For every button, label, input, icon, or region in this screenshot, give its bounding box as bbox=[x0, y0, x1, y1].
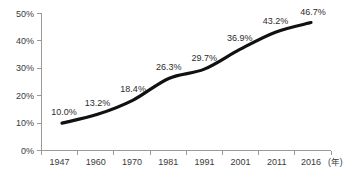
y-tick-label: 10% bbox=[16, 118, 34, 128]
x-tick-label: 2016 bbox=[301, 157, 321, 167]
data-label: 13.2% bbox=[85, 98, 111, 108]
x-tick-label: 2001 bbox=[231, 157, 251, 167]
data-label: 46.7% bbox=[300, 7, 326, 17]
data-label: 43.2% bbox=[263, 16, 289, 26]
chart-canvas: 0% 10% 20% 30% 40% 50% 1947 1960 1970 19… bbox=[0, 0, 355, 181]
x-tick-label: 1947 bbox=[50, 157, 70, 167]
x-axis-tick-labels: 1947 1960 1970 1981 1991 2001 2011 2016 bbox=[50, 157, 321, 167]
x-tick-label: 1991 bbox=[194, 157, 214, 167]
x-axis-ticks bbox=[42, 151, 332, 156]
data-label: 26.3% bbox=[156, 62, 182, 72]
x-tick-label: 1981 bbox=[158, 157, 178, 167]
data-label: 18.4% bbox=[120, 84, 146, 94]
line-chart: 0% 10% 20% 30% 40% 50% 1947 1960 1970 19… bbox=[0, 0, 355, 181]
x-tick-label: 2011 bbox=[267, 157, 286, 167]
x-tick-label: 1960 bbox=[86, 157, 106, 167]
x-tick-label: 1970 bbox=[122, 157, 142, 167]
y-tick-label: 50% bbox=[16, 9, 34, 19]
y-tick-label: 40% bbox=[16, 36, 34, 46]
x-axis-unit-label: (年) bbox=[328, 157, 343, 167]
y-axis-ticks bbox=[37, 14, 42, 151]
y-tick-label: 30% bbox=[16, 63, 34, 73]
y-axis-tick-labels: 0% 10% 20% 30% 40% 50% bbox=[16, 9, 34, 156]
data-label: 36.9% bbox=[227, 33, 253, 43]
data-label: 29.7% bbox=[192, 53, 218, 63]
y-tick-label: 20% bbox=[16, 91, 34, 101]
y-tick-label: 0% bbox=[21, 146, 34, 156]
data-label: 10.0% bbox=[51, 107, 77, 117]
data-point-labels: 10.0% 13.2% 18.4% 26.3% 29.7% 36.9% 43.2… bbox=[51, 7, 326, 118]
